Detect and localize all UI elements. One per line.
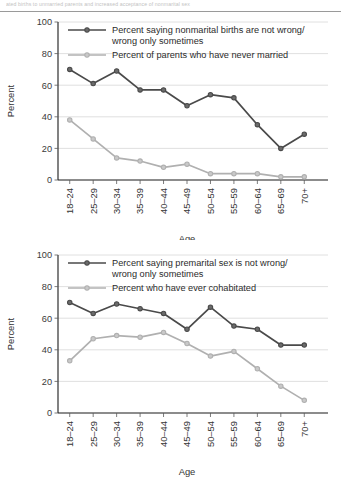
data-point	[232, 96, 236, 100]
data-point	[68, 300, 72, 304]
data-point	[255, 171, 259, 175]
x-axis-title: Age	[179, 466, 196, 477]
x-tick-label-4: 40–44	[158, 421, 169, 447]
y-axis-title: Percent	[5, 317, 16, 350]
legend-swatch-marker-1	[85, 53, 89, 57]
legend-swatch-marker-0	[85, 261, 89, 265]
legend-label-1: Percent who have ever cohabitated	[112, 283, 256, 293]
data-point	[232, 324, 236, 328]
chart-premarital-sex: 020406080100Percent18–2425–2930–3435–394…	[0, 243, 341, 481]
x-tick-label-3: 35–39	[134, 188, 145, 214]
data-point	[208, 305, 212, 309]
x-axis-ticks: 18–2425–2930–3435–3940–4445–4950–5455–59…	[64, 413, 310, 447]
data-point	[91, 337, 95, 341]
legend-label-0-cont: wrong only sometimes	[111, 269, 204, 279]
data-point	[91, 81, 95, 85]
data-point	[185, 341, 189, 345]
x-tick-label-2: 30–34	[111, 421, 122, 447]
data-point	[68, 67, 72, 71]
data-point	[161, 88, 165, 92]
data-point	[255, 327, 259, 331]
data-point	[302, 398, 306, 402]
series-line-0	[70, 69, 305, 148]
data-point	[185, 162, 189, 166]
x-tick-label-8: 60–64	[252, 188, 263, 214]
data-point	[302, 343, 306, 347]
data-point	[185, 327, 189, 331]
x-tick-label-1: 25–29	[88, 421, 99, 447]
data-point	[91, 137, 95, 141]
y-tick-label-60: 60	[42, 81, 52, 91]
data-point	[138, 307, 142, 311]
y-tick-label-100: 100	[37, 250, 52, 260]
data-point	[255, 367, 259, 371]
y-axis-ticks: 020406080100	[37, 250, 58, 418]
data-point	[185, 104, 189, 108]
x-tick-label-0: 18–24	[64, 188, 75, 214]
data-point	[161, 311, 165, 315]
data-point	[208, 92, 212, 96]
chart-premarital-sex-svg: 020406080100Percent18–2425–2930–3435–394…	[0, 243, 341, 481]
data-point	[232, 171, 236, 175]
legend-label-0: Percent saying premarital sex is not wro…	[112, 258, 288, 268]
y-tick-label-40: 40	[42, 112, 52, 122]
data-point	[279, 146, 283, 150]
data-point	[114, 156, 118, 160]
series-light	[68, 330, 307, 402]
x-tick-label-5: 45–49	[181, 421, 192, 447]
x-tick-label-3: 35–39	[134, 421, 145, 447]
x-axis-ticks: 18–2425–2930–3435–3940–4445–4950–5455–59…	[64, 180, 310, 214]
y-tick-label-100: 100	[37, 17, 52, 27]
y-tick-label-40: 40	[42, 345, 52, 355]
x-tick-label-9: 65–69	[275, 188, 286, 214]
x-tick-label-10: 70+	[299, 420, 310, 436]
x-tick-label-8: 60–64	[252, 421, 263, 447]
x-tick-label-0: 18–24	[64, 421, 75, 447]
data-point	[279, 384, 283, 388]
y-tick-label-0: 0	[47, 408, 52, 418]
x-tick-label-7: 55–59	[228, 188, 239, 214]
data-point	[279, 175, 283, 179]
y-tick-label-80: 80	[42, 49, 52, 59]
data-point	[232, 349, 236, 353]
x-axis-title: Age	[179, 233, 196, 240]
legend-swatch-marker-1	[85, 286, 89, 290]
chart-nonmarital-births-svg: 020406080100Percent18–2425–2930–3435–394…	[0, 12, 341, 240]
legend-label-0-cont: wrong only sometimes	[111, 36, 204, 46]
data-point	[114, 302, 118, 306]
chart-nonmarital-births: 020406080100Percent18–2425–2930–3435–394…	[0, 12, 341, 240]
data-point	[302, 132, 306, 136]
y-tick-label-20: 20	[42, 144, 52, 154]
legend-label-1: Percent of parents who have never marrie…	[112, 50, 288, 60]
x-tick-label-6: 50–54	[205, 421, 216, 447]
data-point	[138, 88, 142, 92]
data-point	[68, 359, 72, 363]
y-tick-label-0: 0	[47, 175, 52, 185]
y-axis-ticks: 020406080100	[37, 17, 58, 185]
x-tick-label-6: 50–54	[205, 188, 216, 214]
x-tick-label-2: 30–34	[111, 188, 122, 214]
running-header-fragment: ated births to unmarried parents and inc…	[0, 0, 341, 9]
data-point	[279, 343, 283, 347]
data-point	[302, 175, 306, 179]
data-point	[114, 333, 118, 337]
legend: Percent saying premarital sex is not wro…	[68, 258, 288, 293]
data-point	[255, 123, 259, 127]
data-point	[91, 311, 95, 315]
data-point	[161, 330, 165, 334]
data-point	[208, 171, 212, 175]
data-point	[161, 165, 165, 169]
y-tick-label-60: 60	[42, 314, 52, 324]
data-point	[208, 354, 212, 358]
legend: Percent saying nonmarital births are not…	[68, 25, 305, 60]
data-point	[114, 69, 118, 73]
data-point	[138, 159, 142, 163]
x-tick-label-4: 40–44	[158, 188, 169, 214]
series-dark	[68, 300, 307, 347]
data-point	[138, 335, 142, 339]
x-tick-label-1: 25–29	[88, 188, 99, 214]
series-line-0	[70, 302, 305, 345]
legend-label-0: Percent saying nonmarital births are not…	[112, 25, 305, 35]
series-dark	[68, 67, 307, 150]
y-axis-title: Percent	[5, 84, 16, 117]
